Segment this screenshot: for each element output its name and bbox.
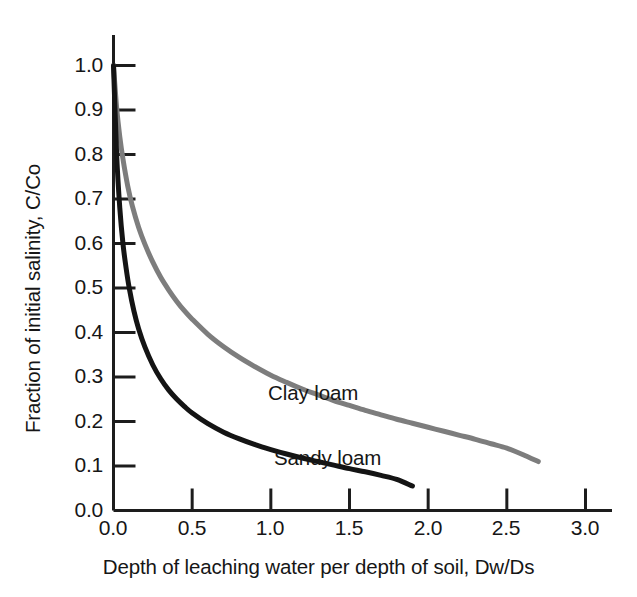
ytick-label-0.3: 0.3 [45, 364, 103, 388]
xtick-label-1.0: 1.0 [235, 515, 305, 541]
chart-figure: 1.0 0.9 0.8 0.7 0.6 0.5 0.4 0.3 0.2 0.1 … [0, 0, 637, 597]
ytick-label-0.2: 0.2 [45, 409, 103, 433]
xtick-label-1.5: 1.5 [314, 515, 384, 541]
xtick-label-2.0: 2.0 [393, 515, 463, 541]
ytick-label-0.4: 0.4 [45, 320, 103, 344]
ytick-label-0.7: 0.7 [45, 186, 103, 210]
series-label-clay-loam: Clay loam [268, 381, 358, 405]
ytick-label-0.9: 0.9 [45, 97, 103, 121]
xtick-label-0.5: 0.5 [157, 515, 227, 541]
x-axis-title: Depth of leaching water per depth of soi… [0, 555, 637, 579]
xtick-label-2.5: 2.5 [471, 515, 541, 541]
axes-group [114, 35, 613, 511]
ytick-label-0.1: 0.1 [45, 453, 103, 477]
xtick-label-3.0: 3.0 [550, 515, 620, 541]
series-group [114, 66, 539, 487]
xtick-label-0.0: 0.0 [78, 515, 148, 541]
y-axis-title: Fraction of initial salinity, C/Co [18, 0, 48, 597]
ytick-label-0.6: 0.6 [45, 231, 103, 255]
ytick-label-1.0: 1.0 [45, 53, 103, 77]
ytick-label-0.5: 0.5 [45, 275, 103, 299]
ytick-label-0.8: 0.8 [45, 142, 103, 166]
series-label-sandy-loam: Sandy loam [274, 446, 381, 470]
